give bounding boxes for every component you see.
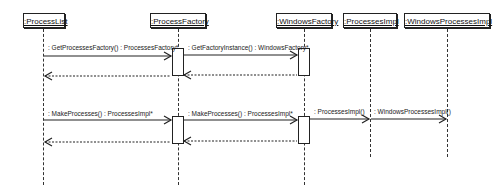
message-label-processesimpl: : ProcessesImpl(): [314, 108, 365, 115]
message-label-getprocessesfactory: : GetProcessesFactory() : ProcessesFacto…: [48, 44, 178, 51]
message-arrows: [0, 0, 504, 190]
message-label-windowsprocessesimpl: : WindowsProcessesImpl(): [374, 108, 451, 115]
message-label-makeprocesses-1: : MakeProcesses() : ProcessesImpl*: [48, 110, 153, 117]
message-label-makeprocesses-2: : MakeProcesses() : ProcessesImpl*: [188, 110, 293, 117]
message-label-getfactoryinstance: : GetFactoryInstance() : WindowsFactory*: [188, 44, 309, 51]
